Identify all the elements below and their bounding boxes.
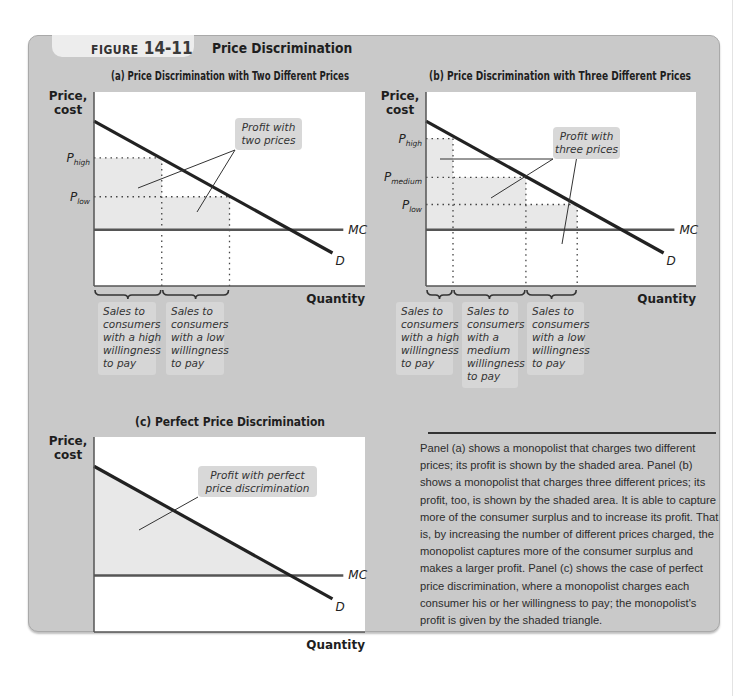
y-axis-label: Price, — [381, 89, 420, 103]
chart-title: (b) Price Discrimination with Three Diff… — [429, 69, 691, 83]
demand-label: D — [667, 254, 676, 268]
segment-text: with a low — [171, 331, 225, 343]
segment-text: Sales to — [103, 305, 145, 317]
y-axis-label: Price, — [49, 89, 88, 103]
segment-brace — [427, 290, 452, 299]
y-axis-label: cost — [386, 103, 415, 117]
profit-shaded-block — [426, 139, 453, 230]
segment-text: willingness — [171, 344, 229, 356]
segment-text: consumers — [467, 318, 525, 330]
demand-label: D — [335, 600, 344, 614]
segment-brace — [95, 290, 161, 299]
mc-label: MC — [348, 568, 367, 582]
segment-text: Sales to — [467, 305, 509, 317]
segment-brace — [454, 290, 525, 299]
chart-title: (c) Perfect Price Discrimination — [135, 415, 325, 429]
profit-shaded-block — [526, 205, 577, 230]
segment-text: medium — [467, 344, 510, 356]
segment-text: to pay — [401, 357, 435, 369]
mc-label: MC — [348, 223, 367, 237]
segment-text: to pay — [103, 357, 137, 369]
segment-text: Sales to — [532, 305, 574, 317]
chart-title: (a) Price Discrimination with Two Differ… — [111, 69, 349, 83]
segment-text: to pay — [467, 370, 501, 382]
price-label-low: Plow — [402, 198, 423, 214]
profit-shaded-block — [94, 158, 162, 230]
profit-callout-text: price discrimination — [205, 482, 310, 494]
chart-panel-a: (a) Price Discrimination with Two Differ… — [49, 69, 368, 375]
segment-text: consumers — [401, 318, 459, 330]
segment-text: with a high — [401, 331, 459, 343]
y-axis-label: cost — [54, 448, 83, 462]
segment-text: to pay — [171, 357, 205, 369]
segment-text: Sales to — [171, 305, 213, 317]
y-axis-label: cost — [54, 103, 83, 117]
segment-text: to pay — [532, 357, 566, 369]
x-axis-label: Quantity — [306, 638, 365, 652]
profit-callout-text: Profit with — [560, 130, 614, 142]
caption-rule — [428, 432, 716, 434]
price-label-low: Plow — [70, 190, 91, 206]
segment-text: with a — [467, 331, 499, 343]
segment-text: Sales to — [401, 305, 443, 317]
price-label-medium: Pmedium — [384, 170, 422, 186]
profit-shaded-block — [162, 197, 230, 230]
demand-label: D — [335, 254, 344, 268]
price-label-high: Phigh — [398, 132, 422, 148]
y-axis-label: Price, — [49, 434, 88, 448]
profit-callout-text: three prices — [555, 143, 618, 155]
segment-text: willingness — [467, 357, 525, 369]
segment-text: consumers — [532, 318, 590, 330]
segment-text: willingness — [532, 344, 590, 356]
segment-text: with a high — [103, 331, 161, 343]
x-axis-label: Quantity — [306, 292, 365, 306]
segment-text: consumers — [171, 318, 229, 330]
chart-panel-c: (c) Perfect Price DiscriminationMCDPrice… — [49, 415, 368, 652]
segment-text: willingness — [401, 344, 459, 356]
profit-callout-text: two prices — [241, 134, 296, 146]
price-label-high: Phigh — [66, 151, 90, 167]
profit-callout-text: Profit with — [242, 121, 296, 133]
profit-callout-text: Profit with perfect — [210, 469, 305, 481]
segment-brace — [527, 290, 576, 299]
segment-text: consumers — [103, 318, 161, 330]
segment-text: with a low — [532, 331, 586, 343]
profit-shaded-block — [453, 177, 526, 229]
segment-text: willingness — [103, 344, 161, 356]
segment-brace — [163, 290, 229, 299]
x-axis-label: Quantity — [637, 292, 696, 306]
mc-label: MC — [679, 223, 698, 237]
chart-panel-b: (b) Price Discrimination with Three Diff… — [381, 69, 699, 388]
figure-caption: Panel (a) shows a monopolist that charge… — [420, 440, 720, 629]
